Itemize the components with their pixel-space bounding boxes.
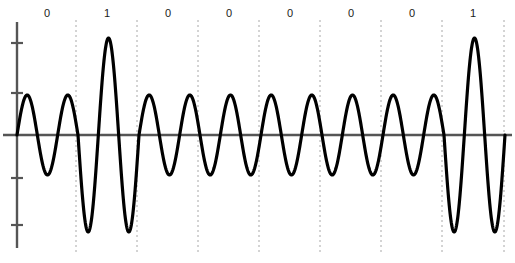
bit-label-7: 1 (470, 7, 476, 19)
ask-waveform-chart: 01000001 (0, 0, 515, 263)
bit-label-6: 0 (409, 7, 415, 19)
bit-label-2: 0 (165, 7, 171, 19)
bit-label-1: 1 (104, 7, 110, 19)
bit-label-3: 0 (226, 7, 232, 19)
bit-label-5: 0 (348, 7, 354, 19)
bit-label-4: 0 (287, 7, 293, 19)
bit-label-0: 0 (44, 7, 50, 19)
